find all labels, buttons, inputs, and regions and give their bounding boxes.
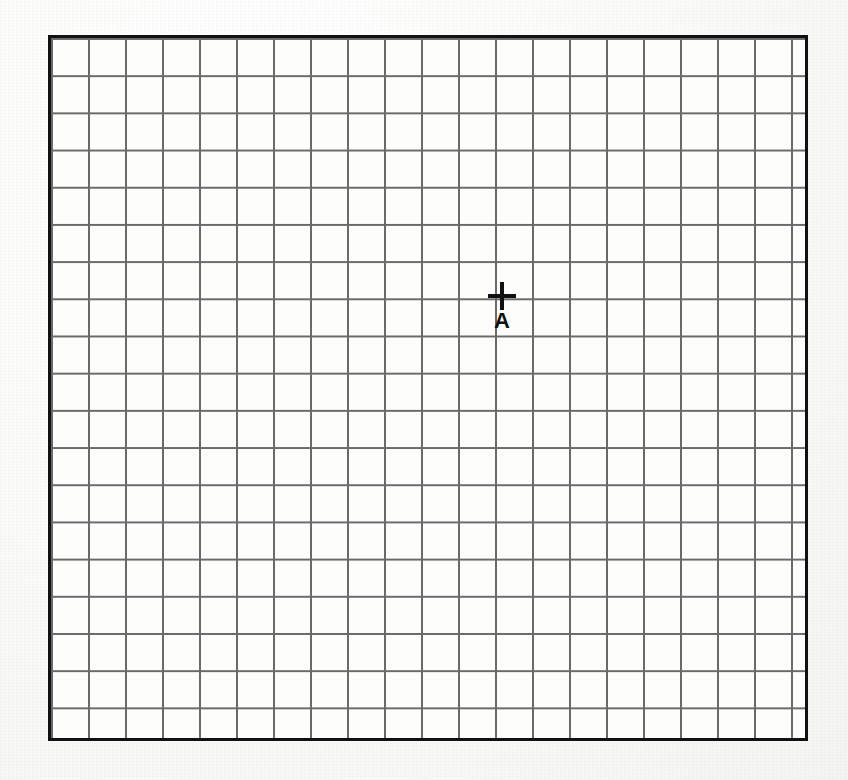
crosshair-vertical-bar xyxy=(500,282,504,310)
marker-point-a[interactable]: A xyxy=(488,282,516,310)
graph-paper-grid: A xyxy=(48,35,808,741)
marker-label-a: A xyxy=(494,310,510,332)
